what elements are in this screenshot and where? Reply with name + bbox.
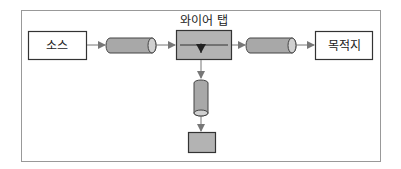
source-label: 소스: [46, 39, 68, 53]
tap-sink-node: [189, 133, 216, 153]
destination-label: 목적지: [328, 39, 361, 53]
tap-channel-cylinder: [194, 80, 208, 116]
channel-cylinder-1: [106, 38, 156, 53]
wiretap-diagram: 소스 와이어 탭 목적지: [0, 0, 401, 169]
destination-node: 목적지: [316, 32, 373, 60]
source-node: 소스: [29, 32, 87, 60]
wiretap-node: [177, 31, 232, 60]
channel-cylinder-2: [246, 38, 296, 53]
wiretap-label: 와이어 탭: [180, 14, 228, 28]
